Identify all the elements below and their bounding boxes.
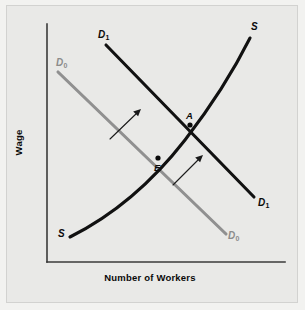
point-a-label: A [186,111,193,121]
demand-d1-letter-bottom: D [258,197,265,208]
figure-container: Wage Number of Workers S S D0 D0 D1 D1 A… [0,0,305,310]
demand-d0-sub-bottom: 0 [236,235,240,242]
supply-label-bottom: S [58,229,65,239]
supply-label-top: S [251,22,258,32]
y-axis-label: Wage [13,113,24,173]
shift-arrow-lower-icon [173,155,203,185]
equilibrium-point-a [187,122,192,127]
equilibrium-point-e [155,155,160,160]
demand-d1-sub-bottom: 1 [266,202,270,209]
demand-d0-sub-top: 0 [64,62,68,69]
demand-d1-sub-top: 1 [106,34,110,41]
x-axis-label: Number of Workers [60,272,240,283]
point-e-label: E [154,163,160,173]
demand-d1-label-top: D1 [98,30,109,40]
demand-d1-letter-top: D [98,29,105,40]
shift-arrow-upper-icon [110,109,141,139]
demand-d0-label-bottom: D0 [228,231,239,241]
demand-d1-label-bottom: D1 [258,198,269,208]
demand-d0-letter-bottom: D [228,230,235,241]
demand-d0-label-top: D0 [56,58,67,68]
chart-plot-area [0,0,305,310]
demand-d0-letter-top: D [56,57,63,68]
demand-curve-d0 [58,72,226,234]
supply-curve-s [70,38,250,237]
